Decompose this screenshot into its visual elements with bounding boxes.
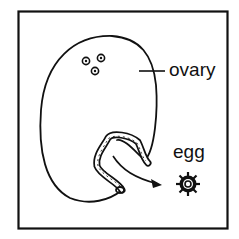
egg-icon [176,172,200,196]
ovary-label: ovary [169,60,215,79]
follicles [82,54,104,74]
oviduct-tube-inner [97,135,148,190]
arrowhead-icon [151,179,162,188]
diagram-frame [19,12,228,229]
egg-label: egg [173,142,205,161]
ovary-diagram [0,0,239,239]
